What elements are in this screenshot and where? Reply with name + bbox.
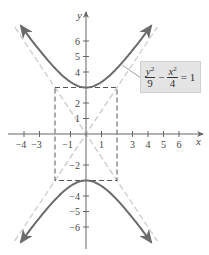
x-axis-label: x [195, 135, 201, 147]
equation-label: y2 9 − x2 4 = 1 [140, 61, 201, 93]
hyperbola-chart: −4−3−113456−6−5−4−212456xy [0, 0, 209, 255]
exponent: 2 [173, 65, 177, 73]
hyperbola-lower-branch [86, 181, 151, 243]
exponent: 2 [151, 65, 155, 73]
y-tick-label: 4 [75, 67, 80, 78]
x-tick-label: −1 [62, 139, 73, 150]
y-tick-label: −2 [69, 160, 80, 171]
x-tick-label: 1 [99, 139, 104, 150]
y-axis-label: y [76, 9, 82, 21]
x-tick-label: 5 [161, 139, 166, 150]
y-tick-label: −6 [69, 222, 80, 233]
x-tick-label: 6 [177, 139, 182, 150]
denominator-4: 4 [169, 78, 177, 89]
fraction-x2-over-4: x2 4 [167, 66, 177, 89]
axes: −4−3−113456−6−5−4−212456xy [8, 9, 203, 249]
y-tick-label: −5 [69, 206, 80, 217]
x-tick-label: −3 [31, 139, 42, 150]
y-tick-label: −4 [69, 191, 80, 202]
y-tick-label: 1 [75, 113, 80, 124]
denominator-9: 9 [146, 78, 154, 89]
y-tick-label: 6 [75, 36, 80, 47]
fraction-y2-over-9: y2 9 [145, 66, 155, 89]
numerator-y: y [146, 65, 151, 77]
x-tick-label: −4 [16, 139, 27, 150]
x-tick-label: 3 [130, 139, 135, 150]
x-tick-label: 4 [146, 139, 151, 150]
y-tick-label: 5 [75, 51, 80, 62]
y-tick-label: 2 [75, 98, 80, 109]
minus-sign: − [158, 71, 164, 83]
equals-one: = 1 [181, 71, 195, 83]
